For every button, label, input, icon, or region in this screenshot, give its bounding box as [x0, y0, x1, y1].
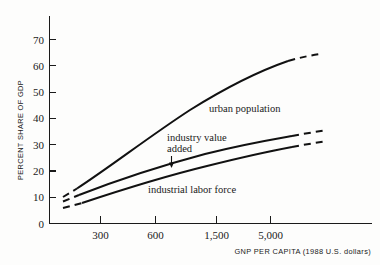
- y-tick-label-10: 10: [33, 191, 45, 203]
- series-industrial-labor-force: [63, 142, 324, 209]
- x-tick-labels: 300 600 1,500 5,000: [92, 229, 283, 241]
- series-urban-population: [63, 54, 320, 197]
- industry-value-added-dash-tail: [292, 131, 324, 137]
- x-tick-label-5000: 5,000: [258, 229, 283, 241]
- industrial-labor-force-dash-head: [63, 203, 82, 208]
- x-axis-title: GNP PER CAPITA (1988 U.S. dollars): [235, 247, 372, 256]
- x-tick-label-300: 300: [92, 229, 109, 241]
- industrial-labor-force-label: industrial labor force: [148, 184, 236, 195]
- urban-population-label: urban population: [209, 103, 281, 114]
- y-tick-labels: 70 60 50 40 30 20 10 0: [33, 34, 45, 230]
- y-axis-title: PERCENT SHARE OF GDP: [16, 80, 25, 180]
- x-tick-marks: [101, 216, 271, 224]
- industrial-labor-force-dash-tail: [292, 142, 324, 148]
- y-tick-label-70: 70: [33, 34, 45, 46]
- y-tick-label-40: 40: [33, 112, 45, 124]
- y-tick-label-50: 50: [33, 86, 45, 98]
- industry-value-added-label-line2: added: [167, 143, 193, 154]
- industry-value-added-label-line1: industry value: [167, 132, 227, 143]
- y-tick-marks: [50, 40, 57, 198]
- chart-plot-area: 70 60 50 40 30 20 10 0 PERCENT SHARE OF …: [0, 0, 380, 265]
- y-tick-label-30: 30: [33, 139, 45, 151]
- y-tick-label-20: 20: [33, 165, 45, 177]
- x-tick-label-1500: 1,500: [204, 229, 229, 241]
- y-tick-label-60: 60: [33, 60, 45, 72]
- urban-population-line: [77, 61, 288, 189]
- urban-population-dash-tail: [288, 54, 320, 61]
- chart-figure: 70 60 50 40 30 20 10 0 PERCENT SHARE OF …: [0, 0, 380, 265]
- y-tick-label-0: 0: [39, 218, 45, 230]
- x-tick-label-600: 600: [147, 229, 164, 241]
